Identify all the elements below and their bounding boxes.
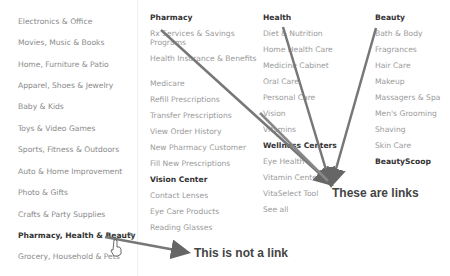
- sidebar-item-home-furniture-patio[interactable]: Home, Furniture & Patio: [18, 60, 130, 69]
- link-shaving[interactable]: Shaving: [375, 125, 440, 141]
- health-heading[interactable]: Health: [263, 13, 337, 29]
- health-column: Health Diet & Nutrition Home Health Care…: [263, 13, 337, 221]
- link-new-pharmacy-customer[interactable]: New Pharmacy Customer: [150, 143, 260, 159]
- link-vitamins[interactable]: Vitamins: [263, 125, 337, 141]
- link-makeup[interactable]: Makeup: [375, 77, 440, 93]
- wellness-centers-heading[interactable]: Wellness Centers: [263, 141, 337, 157]
- link-view-order-history[interactable]: View Order History: [150, 127, 260, 143]
- annotation-not-link-label: This is not a link: [194, 246, 288, 260]
- link-medicare[interactable]: Medicare: [150, 79, 260, 95]
- link-personal-care[interactable]: Personal Care: [263, 93, 337, 109]
- link-reading-glasses[interactable]: Reading Glasses: [150, 223, 260, 239]
- link-contact-lenses[interactable]: Contact Lenses: [150, 191, 260, 207]
- link-oral-care[interactable]: Oral Care: [263, 77, 337, 93]
- link-refill-prescriptions[interactable]: Refill Prescriptions: [150, 95, 260, 111]
- sidebar-item-pharmacy-health-beauty[interactable]: Pharmacy, Health & Beauty: [18, 231, 130, 240]
- sidebar-item-electronics-office[interactable]: Electronics & Office: [18, 17, 130, 26]
- vision-center-heading[interactable]: Vision Center: [150, 175, 260, 191]
- link-eye-care-products[interactable]: Eye Care Products: [150, 207, 260, 223]
- sidebar-item-toys-video-games[interactable]: Toys & Video Games: [18, 124, 130, 133]
- sidebar-item-photo-gifts[interactable]: Photo & Gifts: [18, 188, 130, 197]
- sidebar-item-grocery-household-pets[interactable]: Grocery, Household & Pets: [18, 252, 130, 261]
- pharmacy-heading[interactable]: Pharmacy: [150, 13, 260, 29]
- sidebar-item-crafts-party-supplies[interactable]: Crafts & Party Supplies: [18, 210, 130, 219]
- link-skin-care[interactable]: Skin Care: [375, 141, 440, 157]
- arrow-from-beauty-icon: [332, 28, 376, 183]
- link-vitaselect-tool[interactable]: VitaSelect Tool: [263, 189, 337, 205]
- link-health-insurance[interactable]: Health Insurance & Benefits: [150, 54, 260, 79]
- link-home-health-care[interactable]: Home Health Care: [263, 45, 337, 61]
- link-hair-care[interactable]: Hair Care: [375, 61, 440, 77]
- link-fill-new-prescriptions[interactable]: Fill New Prescriptions: [150, 159, 260, 175]
- category-sidebar: Electronics & Office Movies, Music & Boo…: [0, 0, 138, 276]
- chevron-right-icon: >: [127, 230, 134, 239]
- annotation-links-label: These are links: [332, 186, 419, 200]
- link-fragrances[interactable]: Fragrances: [375, 45, 440, 61]
- link-transfer-prescriptions[interactable]: Transfer Prescriptions: [150, 111, 260, 127]
- pharmacy-column: Pharmacy Rx Services & Savings Programs …: [150, 13, 260, 239]
- link-diet-nutrition[interactable]: Diet & Nutrition: [263, 29, 337, 45]
- link-see-all[interactable]: See all: [263, 205, 337, 221]
- link-vitamin-center[interactable]: Vitamin Center: [263, 173, 337, 189]
- link-medicine-cabinet[interactable]: Medicine Cabinet: [263, 61, 337, 77]
- link-massagers-spa[interactable]: Massagers & Spa: [375, 93, 440, 109]
- beauty-heading[interactable]: Beauty: [375, 13, 440, 29]
- beauty-column: Beauty Bath & Body Fragrances Hair Care …: [375, 13, 440, 173]
- link-eye-health[interactable]: Eye Health: [263, 157, 337, 173]
- sidebar-item-movies-music-books[interactable]: Movies, Music & Books: [18, 38, 130, 47]
- link-bath-body[interactable]: Bath & Body: [375, 29, 440, 45]
- link-rx-services[interactable]: Rx Services & Savings Programs: [150, 29, 260, 54]
- sidebar-item-baby-kids[interactable]: Baby & Kids: [18, 102, 130, 111]
- link-mens-grooming[interactable]: Men's Grooming: [375, 109, 440, 125]
- sidebar-item-auto-home-improvement[interactable]: Auto & Home Improvement: [18, 167, 130, 176]
- link-vision[interactable]: Vision: [263, 109, 337, 125]
- sidebar-item-apparel-shoes-jewelry[interactable]: Apparel, Shoes & Jewelry: [18, 81, 130, 90]
- sidebar-item-sports-fitness-outdoors[interactable]: Sports, Fitness & Outdoors: [18, 145, 130, 154]
- beautyscoop-link[interactable]: BeautyScoop: [375, 157, 440, 173]
